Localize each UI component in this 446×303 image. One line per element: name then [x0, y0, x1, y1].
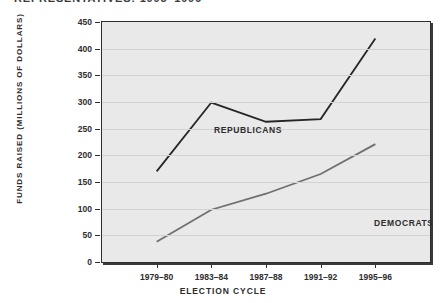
series-label-republicans: Republicans — [214, 125, 282, 135]
y-tick-label: 150 — [58, 177, 92, 187]
x-tick-label: 1995–96 — [340, 272, 410, 282]
y-tick-mark — [95, 129, 100, 130]
gridline — [102, 209, 430, 210]
y-tick-label: 200 — [58, 150, 92, 160]
x-tick-mark — [321, 263, 322, 268]
y-tick-mark — [95, 235, 100, 236]
y-tick-label: 100 — [58, 204, 92, 214]
y-tick-mark — [95, 49, 100, 50]
y-tick-mark — [95, 209, 100, 210]
series-label-democrats: Democrats — [374, 218, 434, 228]
x-tick-mark — [157, 263, 158, 268]
series-line-republicans — [157, 39, 376, 172]
y-axis-title: Funds Raised (Millions of Dollars) — [15, 0, 24, 234]
y-tick-label: 450 — [58, 17, 92, 27]
y-tick-mark — [95, 155, 100, 156]
gridline — [102, 182, 430, 183]
y-tick-mark — [95, 75, 100, 76]
y-tick-label: 50 — [58, 230, 92, 240]
y-tick-label: 400 — [58, 44, 92, 54]
plot-area: Republicans Democrats — [101, 21, 431, 263]
y-tick-label: 250 — [58, 124, 92, 134]
y-tick-label: 350 — [58, 70, 92, 80]
y-tick-mark — [95, 102, 100, 103]
gridline — [102, 102, 430, 103]
gridline — [102, 235, 430, 236]
y-tick-mark — [95, 262, 100, 263]
x-tick-mark — [211, 263, 212, 268]
gridline — [102, 49, 430, 50]
y-tick-mark — [95, 22, 100, 23]
gridline — [102, 75, 430, 76]
series-line-democrats — [157, 144, 376, 242]
x-tick-mark — [266, 263, 267, 268]
y-tick-mark — [95, 182, 100, 183]
line-chart-figure: Funds Raised (Millions of Dollars) Elect… — [0, 0, 446, 303]
y-tick-label: 300 — [58, 97, 92, 107]
x-axis-title: Election Cycle — [0, 286, 446, 296]
gridline — [102, 155, 430, 156]
x-tick-mark — [375, 263, 376, 268]
y-tick-label: 0 — [58, 257, 92, 267]
